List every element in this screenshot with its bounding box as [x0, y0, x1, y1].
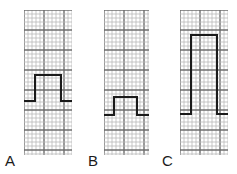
calibration-pulse-trace-b	[104, 10, 149, 155]
calibration-pulse-trace-c	[180, 10, 228, 155]
panel-label-b: B	[88, 153, 98, 168]
grid-paper-a	[24, 10, 72, 155]
grid-paper-c	[180, 10, 228, 155]
ecg-figure: A B C	[0, 0, 237, 174]
ecg-panel-b	[104, 10, 149, 155]
ecg-panel-c	[180, 10, 228, 155]
calibration-pulse-trace-a	[24, 10, 72, 155]
panel-label-a: A	[5, 153, 15, 168]
panel-label-c: C	[162, 153, 173, 168]
grid-paper-b	[104, 10, 149, 155]
ecg-panel-a	[24, 10, 72, 155]
